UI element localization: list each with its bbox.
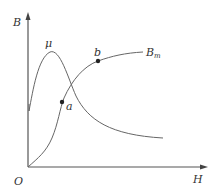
b-curve-label: Bm xyxy=(146,47,161,60)
b-curve-label-sub: m xyxy=(154,52,161,60)
mu-curve xyxy=(29,52,163,138)
b-curve-label-main: B xyxy=(146,46,154,59)
mu-curve-label: μ xyxy=(45,38,52,49)
point-b xyxy=(96,59,100,63)
diagram-canvas xyxy=(0,0,217,194)
point-b-label: b xyxy=(94,47,101,58)
x-axis-arrow-icon xyxy=(200,165,208,170)
x-axis-label: H xyxy=(193,174,203,185)
origin-label: O xyxy=(14,176,23,187)
y-axis-arrow-icon xyxy=(26,12,31,20)
b-curve xyxy=(28,52,143,167)
point-a xyxy=(60,100,64,104)
bh-mu-diagram: B O H μ Bm a b xyxy=(0,0,217,194)
point-a-label: a xyxy=(66,101,73,112)
y-axis-label: B xyxy=(13,17,21,28)
